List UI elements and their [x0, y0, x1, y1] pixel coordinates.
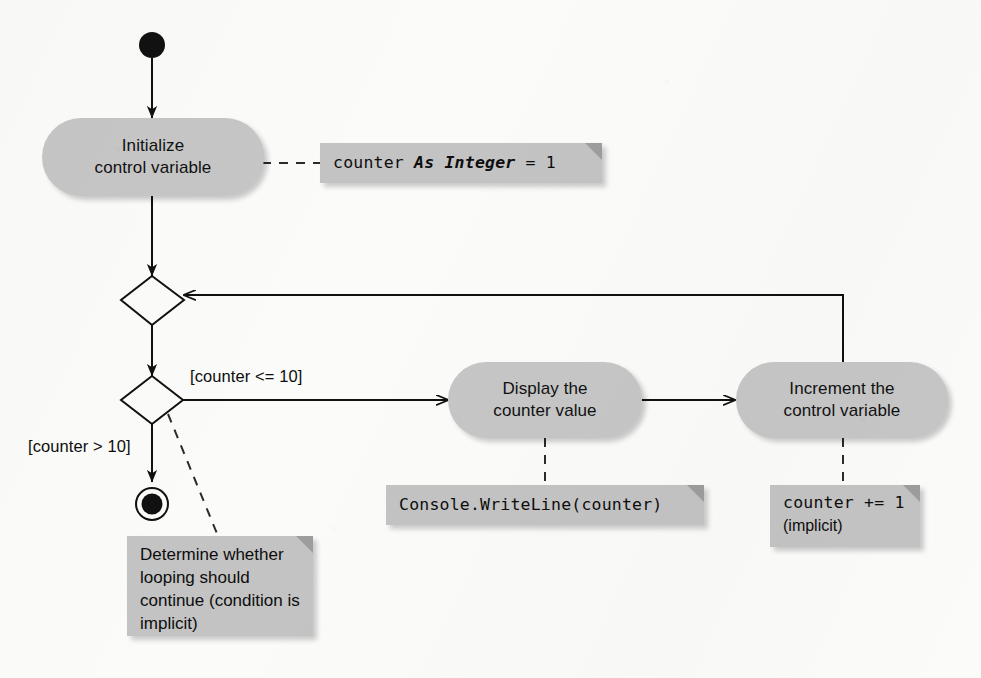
initial-node	[139, 32, 165, 58]
action-initialize-line2: control variable	[95, 157, 212, 179]
note-display-code: Console.WriteLine(counter)	[386, 485, 704, 525]
note-declaration-code: counter As Integer = 1	[320, 143, 602, 181]
note-increment-body: counter += 1 (implicit)	[770, 485, 920, 545]
note-declaration-prefix: counter	[333, 153, 414, 172]
note-declaration-suffix: = 1	[515, 153, 556, 172]
edge-increment-loopback	[184, 295, 843, 366]
final-node	[135, 487, 169, 521]
note-increment-code-text: counter += 1	[783, 493, 905, 512]
action-display-line1: Display the	[493, 378, 596, 400]
note-decision-explanation: Determine whether looping should continu…	[127, 536, 313, 636]
note-decision-line3: continue (condition	[140, 591, 283, 610]
action-initialize-line1: Initialize	[95, 135, 212, 157]
action-increment-line2: control variable	[784, 400, 901, 422]
note-declaration: counter As Integer = 1	[320, 143, 602, 183]
action-increment-line1: Increment the	[784, 378, 901, 400]
action-initialize-control-variable: Initialize control variable	[42, 118, 264, 196]
note-decision-line1: Determine whether	[140, 545, 284, 564]
note-decision-explanation-body: Determine whether looping should continu…	[127, 536, 313, 642]
note-increment-comment: (implicit)	[783, 517, 843, 534]
note-anchor-decision	[168, 414, 218, 536]
action-display-counter-value: Display the counter value	[448, 362, 642, 438]
guard-loop-exit: [counter > 10]	[28, 437, 131, 456]
note-display-code-text: Console.WriteLine(counter)	[386, 485, 704, 523]
note-decision-line2: looping should	[140, 568, 250, 587]
note-increment-code: counter += 1 (implicit)	[770, 485, 920, 547]
action-display-line2: counter value	[493, 400, 596, 422]
action-increment-control-variable: Increment the control variable	[736, 362, 948, 438]
guard-loop-continue: [counter <= 10]	[190, 367, 303, 386]
merge-node	[121, 276, 184, 325]
activity-diagram-canvas: Initialize control variable Display the …	[0, 0, 981, 678]
note-declaration-keyword: As Integer	[414, 153, 515, 172]
decision-node	[121, 376, 183, 424]
